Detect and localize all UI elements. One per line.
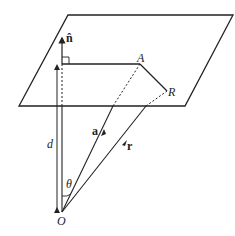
vector-a-dashed (113, 64, 140, 106)
label-origin: O (57, 214, 66, 228)
segment-a-r (140, 64, 167, 91)
label-vector-r: r (127, 139, 133, 153)
right-angle-marker (62, 57, 69, 64)
label-angle: θ (66, 177, 72, 191)
label-r-point: R (167, 85, 176, 99)
label-a-point: A (136, 51, 145, 65)
label-distance: d (47, 137, 54, 151)
vector-a-solid (62, 106, 113, 212)
label-normal: n̂ (66, 31, 73, 45)
vector-r-dashed (146, 91, 167, 106)
vector-r-solid (62, 106, 146, 212)
plane-diagram: n̂ A R d a r θ O (0, 0, 235, 236)
plane (19, 15, 233, 106)
label-vector-a: a (92, 124, 98, 138)
